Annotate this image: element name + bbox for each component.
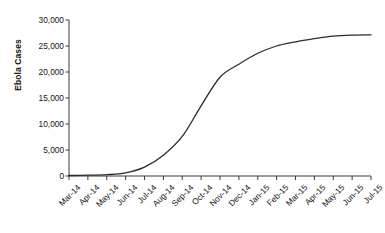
- x-axis-tick-labels: Mar-14Apr-14May-14Jun-14Jul-14Aug-14Sep-…: [0, 0, 385, 233]
- ebola-cases-chart: Ebola Cases 30,00025,00020,00015,00010,0…: [0, 0, 385, 233]
